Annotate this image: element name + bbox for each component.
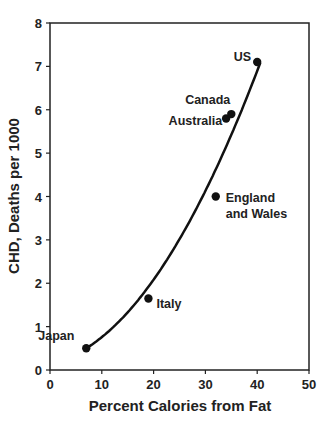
x-tick-label: 10 (95, 377, 109, 392)
data-point: Japan (38, 329, 90, 352)
y-tick-label: 3 (35, 233, 42, 248)
y-axis-label: CHD, Deaths per 1000 (5, 118, 22, 274)
data-point: Australia (169, 114, 231, 128)
point-label: Englandand Wales (226, 191, 287, 221)
point-label: Italy (156, 297, 181, 311)
x-tick-label: 30 (198, 377, 212, 392)
point-label: Canada (185, 93, 231, 107)
x-tick-label: 20 (146, 377, 160, 392)
point-label: US (234, 50, 251, 64)
data-point: Englandand Wales (212, 191, 288, 221)
y-tick-label: 7 (35, 59, 42, 74)
point-label: Japan (38, 329, 74, 343)
point-label: Australia (169, 114, 224, 128)
data-point: US (234, 50, 262, 66)
data-point: Italy (144, 294, 181, 311)
x-tick-label: 0 (46, 377, 53, 392)
y-tick-label: 6 (35, 103, 42, 118)
data-points: JapanItalyEnglandand WalesAustraliaCanad… (38, 50, 287, 352)
y-tick-label: 0 (35, 363, 42, 378)
x-tick-label: 40 (250, 377, 264, 392)
y-tick-label: 8 (35, 16, 42, 31)
y-tick-label: 2 (35, 276, 42, 291)
scatter-chart: 01020304050012345678 JapanItalyEnglandan… (0, 0, 335, 429)
x-tick-label: 50 (302, 377, 316, 392)
y-tick-label: 5 (35, 146, 42, 161)
x-axis-label: Percent Calories from Fat (89, 397, 272, 414)
y-tick-label: 4 (35, 190, 43, 205)
